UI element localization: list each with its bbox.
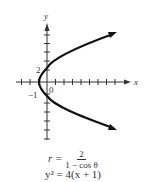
parabola-curve xyxy=(39,34,113,128)
polar-lhs: r = xyxy=(48,152,62,164)
fraction: 2 1 − cos θ xyxy=(65,149,98,170)
tick-label-neg1: −1 xyxy=(28,90,38,100)
x-axis-arrow-icon xyxy=(124,80,131,85)
x-axis-label: x xyxy=(133,77,138,87)
cartesian-equation: y² = 4(x + 1) xyxy=(0,168,146,180)
curve-arrow-bottom-icon xyxy=(108,124,117,130)
y-axis-arrow-icon xyxy=(45,23,50,31)
y-axis-label: y xyxy=(43,11,48,21)
curve-arrow-top-icon xyxy=(108,32,117,38)
polar-equation: r = 2 1 − cos θ xyxy=(0,149,146,170)
tick-label-2: 2 xyxy=(36,65,41,75)
numerator: 2 xyxy=(77,149,86,160)
tick-label-origin: 0 xyxy=(49,85,54,95)
